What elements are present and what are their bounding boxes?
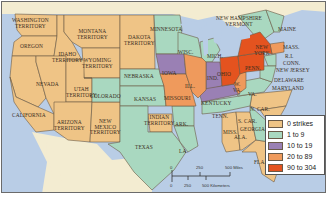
label-nj: NEW JERSEY xyxy=(276,68,310,74)
scale-miles-250: 250 xyxy=(196,165,203,170)
legend-swatch-1 xyxy=(268,131,283,139)
label-ala: ALA. xyxy=(234,135,247,141)
label-colorado: COLORADO xyxy=(90,94,121,100)
label-oregon: OREGON xyxy=(20,44,43,50)
legend-label-2: 10 to 19 xyxy=(287,142,312,149)
label-georgia: GEORGIA xyxy=(240,127,265,133)
label-ncar: N. CAR. xyxy=(250,107,270,113)
label-conn: CONN. xyxy=(283,61,300,67)
label-ri: R.I. xyxy=(285,54,294,60)
label-arizona: ARIZONA TERRITORY xyxy=(54,120,85,131)
label-montana: MONTANA TERRITORY xyxy=(77,29,108,40)
label-minnesota: MINNESOTA xyxy=(150,27,182,33)
legend-swatch-4 xyxy=(268,164,283,172)
label-la: LA. xyxy=(179,149,188,155)
legend-swatch-0 xyxy=(268,120,283,128)
scale-miles-0: 0 xyxy=(170,165,172,170)
legend-item-3: 20 to 89 xyxy=(268,151,322,162)
label-nebraska: NEBRASKA xyxy=(124,74,154,80)
label-texas: TEXAS xyxy=(135,145,153,151)
label-maryland: MARYLAND xyxy=(272,86,304,92)
label-penn: PENN. xyxy=(245,66,261,72)
legend-swatch-3 xyxy=(268,153,283,161)
label-mich: MICH. xyxy=(207,54,223,60)
label-va: VA. xyxy=(248,92,257,98)
label-nh-vt: NEW HAMPSHIRE VERMONT xyxy=(216,16,262,27)
label-kansas: KANSAS xyxy=(134,97,156,103)
label-kentucky: KENTUCKY xyxy=(201,101,231,107)
label-indian: INDIAN TERRITORY xyxy=(144,115,175,126)
legend-item-1: 1 to 9 xyxy=(268,129,322,140)
label-nevada: NEVADA xyxy=(36,82,59,88)
region-mass xyxy=(270,42,284,54)
label-washington: WASHINGTON TERRITORY xyxy=(12,18,49,29)
label-newyork: NEW YORK xyxy=(254,45,270,56)
label-dakota: DAKOTA TERRITORY xyxy=(124,35,155,46)
legend-swatch-2 xyxy=(268,142,283,150)
legend-label-3: 20 to 89 xyxy=(287,153,312,160)
label-mass: MASS. xyxy=(283,45,300,51)
label-ark: ARK. xyxy=(175,122,188,128)
label-iowa: IOWA xyxy=(162,71,176,77)
scale-bar: 0 250 500 Miles 0 250 500 Kilometers xyxy=(170,162,260,192)
label-newmexico: NEW MEXICO TERRITORY xyxy=(90,119,121,136)
label-wva: W. VA. xyxy=(233,82,242,93)
scale-km-250: 250 xyxy=(184,183,191,188)
legend-label-1: 1 to 9 xyxy=(287,131,305,138)
legend-item-4: 90 to 304 xyxy=(268,162,322,173)
scale-miles-500: 500 Miles xyxy=(225,165,243,170)
label-ill: ILL. xyxy=(185,84,195,90)
label-missouri: MISSOURI xyxy=(164,96,191,102)
legend: 0 strikes 1 to 9 10 to 19 20 to 89 90 to… xyxy=(265,115,325,175)
label-wyoming: WYOMING TERRITORY xyxy=(82,58,113,69)
label-ohio: OHIO xyxy=(217,72,231,78)
label-scar: S. CAR. xyxy=(238,119,257,125)
label-delaware: DELAWARE xyxy=(274,78,304,84)
legend-label-4: 90 to 304 xyxy=(287,164,316,171)
label-california: CALIFORNIA xyxy=(12,113,46,119)
legend-item-0: 0 strikes xyxy=(268,118,322,129)
label-idaho: IDAHO TERRITORY xyxy=(52,52,83,63)
scale-km-500: 500 Kilometers xyxy=(202,183,230,188)
legend-item-2: 10 to 19 xyxy=(268,140,322,151)
scale-km-0: 0 xyxy=(170,183,172,188)
legend-label-0: 0 strikes xyxy=(287,120,313,127)
label-wisc: WISC. xyxy=(178,50,193,56)
label-tenn: TENN. xyxy=(212,114,228,120)
strike-map: WASHINGTON TERRITORY OREGON IDAHO TERRIT… xyxy=(1,1,326,193)
label-maine: MAINE xyxy=(278,27,296,33)
